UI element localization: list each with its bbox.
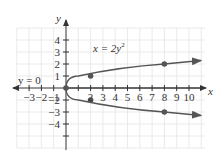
y-tick-label: 4 <box>55 34 61 46</box>
y-tick-labels: 4 3 2 1 −2 −3 −4 <box>48 34 60 130</box>
x-tick-label: 4 <box>112 91 118 103</box>
lower-branch <box>66 88 201 116</box>
x-tick-label: 10 <box>184 91 196 103</box>
x-tick-label: −3 <box>23 91 35 103</box>
y-axis-label: y <box>55 12 61 24</box>
x-axis-label: x <box>207 85 213 97</box>
x-tick-label: 5 <box>125 91 131 103</box>
equation-exponent: 2 <box>121 41 125 49</box>
x-tick-label: 3 <box>100 91 106 103</box>
y-zero-label: y = 0 <box>18 74 41 86</box>
x-tick-label: 2 <box>88 91 94 103</box>
point-8-2 <box>162 61 168 67</box>
x-tick-label: 6 <box>137 91 143 103</box>
parabola-graph: −3 −2 −1 2 3 4 5 6 7 8 9 10 4 3 2 1 −2 −… <box>0 0 218 151</box>
y-tick-label: −3 <box>48 106 60 118</box>
y-tick-label: 2 <box>55 58 61 70</box>
x-tick-label: −2 <box>36 91 48 103</box>
point-origin <box>63 85 69 91</box>
x-tick-label: 8 <box>162 91 168 103</box>
x-tick-label: 9 <box>174 91 180 103</box>
x-tick-label: 7 <box>149 91 155 103</box>
equation-text: x = 2y <box>92 42 121 54</box>
y-tick-label: 3 <box>55 46 61 58</box>
point-8-neg2 <box>162 109 168 115</box>
upper-branch <box>66 61 201 89</box>
equation-label: x = 2y2 <box>92 41 125 54</box>
y-tick-label: 1 <box>55 70 61 82</box>
point-2-1 <box>88 73 94 79</box>
y-tick-label: −4 <box>48 118 60 130</box>
y-tick-label: −2 <box>48 94 60 106</box>
